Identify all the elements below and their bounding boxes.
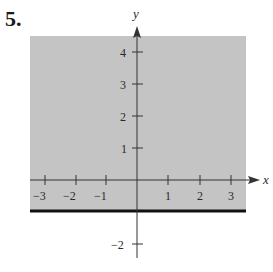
- coordinate-plane: x y −3 −2 −1 1 2 3 4 3 2 1 −2: [0, 0, 273, 272]
- y-tick-label: 3: [120, 78, 126, 92]
- y-tick-label: 1: [121, 142, 127, 156]
- x-tick-label: 2: [197, 189, 203, 203]
- y-tick-label: 2: [120, 110, 126, 124]
- x-tick-label: −3: [33, 189, 46, 203]
- x-tick-label: −2: [63, 189, 76, 203]
- y-tick-label: 4: [120, 46, 126, 60]
- x-axis-label: x: [262, 172, 269, 187]
- y-axis-label: y: [131, 6, 139, 21]
- x-tick-label: 3: [228, 189, 234, 203]
- x-tick-label: −1: [94, 189, 107, 203]
- x-tick-label: 1: [165, 189, 171, 203]
- y-tick-label: −2: [111, 238, 124, 252]
- shaded-region: [30, 36, 246, 211]
